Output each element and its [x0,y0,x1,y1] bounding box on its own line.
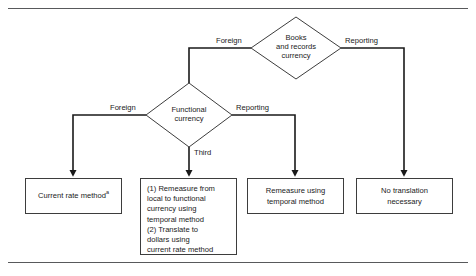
flowchart-figure: Books and records currency Functional cu… [0,0,476,276]
outcome-box-1-text: Current rate method [38,191,106,200]
outcome-box-current-rate-method: Current rate methoda [25,178,122,214]
edge-mid-foreign [73,115,146,173]
footnote-marker-a: a [106,190,109,196]
edge-mid-reporting [232,115,295,173]
outcome-box-3-text: Remeasure using temporal method [259,180,333,211]
outcome-box-no-translation: No translation necessary [356,178,453,214]
edge-top-foreign [189,48,251,83]
edge-label-mid-third: Third [194,148,211,157]
outcome-box-2-text: (1) Remeasure from local to functional c… [141,179,236,259]
outcome-box-1-text-wrap: Current rate methoda [31,185,116,206]
outcome-box-remeasure-temporal: Remeasure using temporal method [247,178,344,214]
edge-label-top-foreign: Foreign [216,36,242,45]
outcome-box-remeasure-and-translate: (1) Remeasure from local to functional c… [140,178,237,255]
decision-mid-diamond [146,83,232,147]
decision-top-diamond [251,17,341,79]
edge-top-reporting [341,48,404,173]
edge-label-mid-reporting: Reporting [236,103,269,112]
edge-label-mid-foreign: Foreign [110,103,136,112]
outcome-box-4-text: No translation necessary [374,180,435,211]
edge-label-top-reporting: Reporting [345,36,378,45]
